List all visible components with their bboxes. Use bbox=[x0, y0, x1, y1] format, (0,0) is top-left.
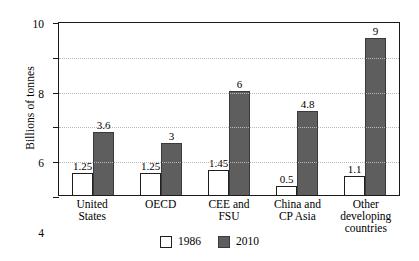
bar-wrapper: 0.5 bbox=[276, 186, 297, 195]
y-axis-tick: 0 bbox=[53, 197, 59, 198]
bar-value-label: 9 bbox=[373, 26, 379, 37]
bar-1986 bbox=[276, 186, 297, 195]
bar-groups: 1.253.61.2531.4560.54.81.19 bbox=[59, 23, 399, 195]
bar-wrapper: 1.25 bbox=[72, 173, 93, 195]
plot-inner: 1.253.61.2531.4560.54.81.19 0246810 bbox=[59, 23, 399, 195]
x-axis-label-line: FSU bbox=[195, 211, 263, 223]
bar-wrapper: 6 bbox=[229, 91, 250, 195]
bar-wrapper: 3 bbox=[161, 143, 182, 195]
y-axis-tick: 8 bbox=[53, 58, 59, 59]
bar-1986 bbox=[140, 173, 161, 195]
bar-value-label: 1.45 bbox=[209, 158, 228, 169]
bar-value-label: 3.6 bbox=[97, 120, 111, 131]
bar-wrapper: 4.8 bbox=[297, 111, 318, 195]
bar-1986 bbox=[72, 173, 93, 195]
x-axis-label-line: countries bbox=[332, 223, 400, 235]
x-axis-category-labels: UnitedStatesOECDCEE andFSUChina andCP As… bbox=[58, 199, 400, 234]
bar-group: 1.19 bbox=[344, 23, 386, 195]
x-axis-label-1: OECD bbox=[126, 199, 194, 211]
bar-wrapper: 3.6 bbox=[93, 132, 114, 195]
bar-value-label: 0.5 bbox=[280, 174, 294, 185]
plot-area: 1.253.61.2531.4560.54.81.19 0246810 bbox=[58, 22, 400, 196]
bar-value-label: 6 bbox=[237, 79, 243, 90]
bar-value-label: 3 bbox=[169, 131, 175, 142]
legend-label: 1986 bbox=[178, 236, 201, 248]
legend-item-2010: 2010 bbox=[218, 236, 259, 248]
gridline bbox=[59, 58, 399, 59]
legend-item-1986: 1986 bbox=[160, 236, 201, 248]
gridline bbox=[59, 162, 399, 163]
bar-wrapper: 9 bbox=[365, 38, 386, 195]
y-axis-tick: 2 bbox=[53, 162, 59, 163]
chart-legend: 19862010 bbox=[0, 236, 419, 248]
bar-1986 bbox=[208, 170, 229, 195]
gridline bbox=[59, 127, 399, 128]
y-axis-tick: 6 bbox=[53, 93, 59, 94]
bar-2010 bbox=[365, 38, 386, 195]
bar-group: 0.54.8 bbox=[276, 23, 318, 195]
bar-value-label: 4.8 bbox=[301, 99, 315, 110]
bar-2010 bbox=[229, 91, 250, 195]
bar-wrapper: 1.1 bbox=[344, 176, 365, 195]
y-axis-tick-label: 10 bbox=[33, 18, 45, 30]
x-axis-label-0: UnitedStates bbox=[58, 199, 126, 223]
legend-label: 2010 bbox=[236, 236, 259, 248]
bar-group: 1.253.6 bbox=[72, 23, 114, 195]
bar-value-label: 1.1 bbox=[348, 164, 362, 175]
bar-wrapper: 1.25 bbox=[140, 173, 161, 195]
gray-square-icon bbox=[218, 236, 230, 248]
x-axis-label-line: OECD bbox=[126, 199, 194, 211]
gridline bbox=[59, 93, 399, 94]
x-axis-label-2: CEE andFSU bbox=[195, 199, 263, 223]
bar-chart: Billions of tonnes 1.253.61.2531.4560.54… bbox=[0, 0, 419, 261]
y-axis-tick: 10 bbox=[53, 23, 59, 24]
x-axis-label-line: States bbox=[58, 211, 126, 223]
bar-2010 bbox=[161, 143, 182, 195]
white-square-icon bbox=[160, 236, 172, 248]
y-axis-tick-label: 8 bbox=[38, 88, 44, 100]
x-axis-label-line: developing bbox=[332, 211, 400, 223]
bar-1986 bbox=[344, 176, 365, 195]
bar-2010 bbox=[93, 132, 114, 195]
y-axis-tick: 4 bbox=[53, 127, 59, 128]
bar-group: 1.253 bbox=[140, 23, 182, 195]
bar-group: 1.456 bbox=[208, 23, 250, 195]
bar-2010 bbox=[297, 111, 318, 195]
x-axis-label-3: China andCP Asia bbox=[263, 199, 331, 223]
bar-wrapper: 1.45 bbox=[208, 170, 229, 195]
y-axis-tick-label: 6 bbox=[38, 157, 44, 169]
x-axis-label-line: CP Asia bbox=[263, 211, 331, 223]
x-axis-label-4: Otherdevelopingcountries bbox=[332, 199, 400, 234]
